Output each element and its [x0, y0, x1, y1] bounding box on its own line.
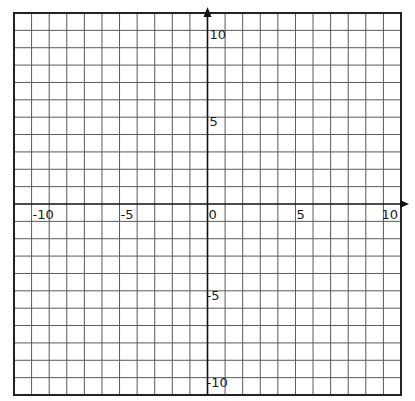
- y-tick-label: -5: [207, 288, 220, 303]
- x-tick-label: 5: [296, 207, 304, 222]
- x-tick-label: -5: [121, 207, 134, 222]
- y-tick-label: 10: [210, 27, 227, 42]
- x-tick-labels: -10-50510: [33, 207, 398, 222]
- x-tick-label: 10: [381, 207, 398, 222]
- x-tick-label: -10: [33, 207, 54, 222]
- y-tick-label: -10: [207, 375, 228, 390]
- coordinate-plane: -10-50510 105-5-10: [0, 0, 415, 401]
- x-tick-label: 0: [209, 207, 217, 222]
- y-tick-label: 5: [210, 114, 218, 129]
- x-axis-arrow-icon: [400, 200, 409, 208]
